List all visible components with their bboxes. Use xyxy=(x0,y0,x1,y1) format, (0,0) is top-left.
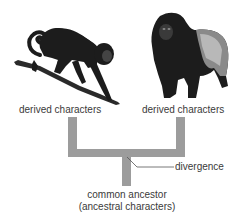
ancestral-characters-label: (ancestral characters) xyxy=(0,201,239,212)
divergence-leader-line xyxy=(0,0,239,213)
common-ancestor-label: common ancestor xyxy=(0,189,239,200)
divergence-label: divergence xyxy=(175,161,224,172)
